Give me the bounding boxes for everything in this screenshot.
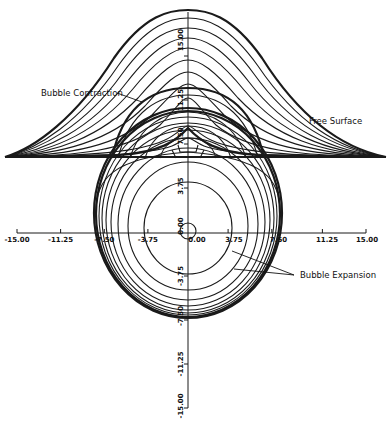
y-tick-label: 3.75 bbox=[177, 177, 185, 194]
x-tick-label: 11.25 bbox=[316, 236, 338, 244]
y-tick-label: 15.00 bbox=[177, 29, 185, 51]
y-tick-label: -15.00 bbox=[177, 393, 185, 418]
y-tick-label: 7.50 bbox=[177, 127, 185, 144]
x-tick-label: -11.25 bbox=[48, 236, 73, 244]
y-tick-label: -3.75 bbox=[177, 266, 185, 286]
x-tick-label: -3.75 bbox=[138, 236, 158, 244]
x-tick-labels: -15.00 -11.25 -7.50 -3.75 0.00 3.75 7.50… bbox=[4, 236, 378, 244]
x-tick-label: 7.50 bbox=[270, 236, 287, 244]
x-tick-label: -7.50 bbox=[94, 236, 114, 244]
axes bbox=[17, 12, 366, 408]
expansion-leader-1 bbox=[232, 251, 294, 275]
free-surface-curves bbox=[5, 10, 386, 157]
y-tick-label: 0.00 bbox=[177, 217, 185, 234]
free-surface-label: Free Surface bbox=[309, 116, 362, 126]
x-tick-label: 15.00 bbox=[356, 236, 378, 244]
bubble-free-surface-diagram: -15.00 -11.25 -7.50 -3.75 0.00 3.75 7.50… bbox=[0, 0, 392, 423]
x-tick-label: -15.00 bbox=[4, 236, 29, 244]
x-tick-label: 0.00 bbox=[188, 236, 205, 244]
y-tick-label: -7.50 bbox=[177, 306, 185, 326]
bubble-contraction-label: Bubble Contraction bbox=[41, 88, 123, 98]
y-tick-label: -11.25 bbox=[177, 351, 185, 376]
y-tick-label: 11.25 bbox=[177, 89, 185, 111]
bubble-expansion-label: Bubble Expansion bbox=[300, 270, 376, 280]
x-tick-label: 3.75 bbox=[225, 236, 242, 244]
